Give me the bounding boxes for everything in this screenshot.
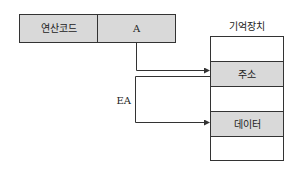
address-label: A xyxy=(132,23,141,34)
memory-cell-2 xyxy=(211,87,284,112)
memory-cell-data-label: 데이터 xyxy=(234,119,261,130)
arrow-address-to-data xyxy=(136,77,211,123)
ea-label: EA xyxy=(116,95,131,106)
memory-cell-0 xyxy=(211,37,284,62)
memory-cell-4 xyxy=(211,137,284,161)
arrow-a-to-address xyxy=(137,43,210,71)
opcode-label: 연산코드 xyxy=(41,23,77,34)
instruction-format: 연산코드 A xyxy=(20,15,176,43)
memory-title: 기억장치 xyxy=(229,21,265,32)
memory-block: 주소 데이터 xyxy=(211,37,284,161)
indirect-addressing-diagram: 연산코드 A 기억장치 주소 데이터 EA xyxy=(0,0,298,170)
memory-cell-address-label: 주소 xyxy=(238,69,256,80)
